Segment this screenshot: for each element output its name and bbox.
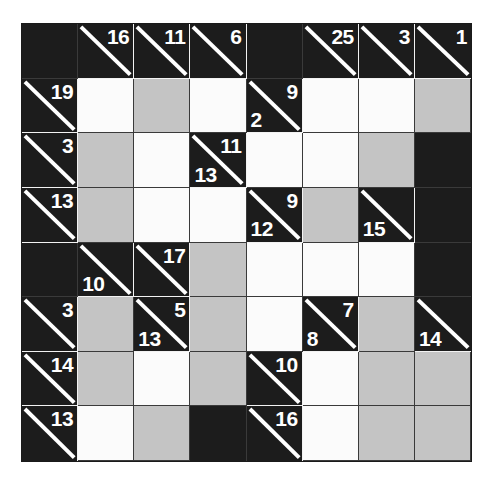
entry-cell[interactable]	[134, 406, 190, 461]
entry-cell[interactable]	[78, 406, 134, 461]
clue-cell: 1113	[190, 133, 246, 188]
entry-value	[359, 79, 414, 133]
clue-across-value: 17	[163, 244, 185, 267]
clue-across-value: 6	[230, 25, 241, 48]
entry-cell[interactable]	[78, 297, 134, 352]
clue-cell: 10	[78, 243, 134, 298]
clue-down-value: 12	[251, 217, 273, 240]
entry-cell[interactable]	[359, 297, 415, 352]
entry-value	[359, 406, 414, 460]
entry-cell[interactable]	[78, 79, 134, 134]
entry-value	[415, 352, 470, 406]
entry-cell[interactable]	[303, 133, 359, 188]
clue-cell: 3	[359, 24, 415, 79]
entry-cell[interactable]	[359, 243, 415, 298]
clue-cell: 19	[22, 79, 78, 134]
clue-cell: 13	[22, 406, 78, 461]
clue-across-value: 11	[220, 134, 241, 157]
entry-cell[interactable]	[415, 406, 471, 461]
entry-value	[78, 297, 133, 351]
entry-cell[interactable]	[359, 79, 415, 134]
entry-cell[interactable]	[134, 188, 190, 243]
blank-cell	[415, 133, 471, 188]
entry-cell[interactable]	[415, 352, 471, 407]
entry-value	[415, 406, 470, 460]
entry-cell[interactable]	[134, 133, 190, 188]
entry-cell[interactable]	[134, 79, 190, 134]
entry-value	[247, 297, 302, 351]
clue-down-value: 8	[307, 327, 318, 350]
entry-value	[190, 352, 245, 406]
clue-across-value: 25	[331, 25, 353, 48]
clue-down-value: 10	[82, 272, 104, 295]
entry-value	[134, 133, 189, 187]
entry-value	[303, 243, 358, 297]
entry-cell[interactable]	[303, 188, 359, 243]
blank-cell	[190, 406, 246, 461]
clue-across-value: 14	[51, 353, 73, 376]
entry-value	[78, 352, 133, 406]
entry-cell[interactable]	[78, 133, 134, 188]
clue-cell: 16	[247, 406, 303, 461]
entry-value	[359, 352, 414, 406]
entry-cell[interactable]	[247, 133, 303, 188]
entry-cell[interactable]	[134, 352, 190, 407]
entry-cell[interactable]	[190, 243, 246, 298]
entry-value	[415, 79, 470, 133]
clue-cell: 1	[415, 24, 471, 79]
entry-cell[interactable]	[190, 79, 246, 134]
entry-cell[interactable]	[247, 243, 303, 298]
entry-cell[interactable]	[415, 79, 471, 134]
entry-value	[190, 297, 245, 351]
clue-cell: 25	[303, 24, 359, 79]
clue-cell: 16	[78, 24, 134, 79]
clue-across-value: 3	[62, 298, 73, 321]
entry-cell[interactable]	[78, 188, 134, 243]
kakuro-puzzle: 1611625311992311131391215101735137814141…	[0, 0, 492, 484]
entry-cell[interactable]	[359, 406, 415, 461]
blank-cell	[415, 243, 471, 298]
entry-value	[359, 297, 414, 351]
clue-across-value: 11	[164, 25, 185, 48]
entry-cell[interactable]	[303, 243, 359, 298]
entry-cell[interactable]	[78, 352, 134, 407]
entry-value	[78, 79, 133, 133]
entry-value	[190, 188, 245, 242]
entry-cell[interactable]	[303, 406, 359, 461]
entry-value	[303, 406, 358, 460]
entry-cell[interactable]	[190, 188, 246, 243]
clue-cell: 92	[247, 79, 303, 134]
entry-value	[78, 133, 133, 187]
clue-cell: 3	[22, 297, 78, 352]
entry-value	[303, 188, 358, 242]
clue-cell: 13	[22, 188, 78, 243]
clue-across-value: 1	[456, 25, 467, 48]
entry-cell[interactable]	[190, 352, 246, 407]
clue-down-value: 14	[419, 327, 441, 350]
entry-cell[interactable]	[190, 297, 246, 352]
entry-cell[interactable]	[359, 133, 415, 188]
clue-across-value: 16	[275, 407, 297, 430]
entry-cell[interactable]	[303, 79, 359, 134]
clue-cell: 513	[134, 297, 190, 352]
entry-cell[interactable]	[359, 352, 415, 407]
entry-value	[303, 79, 358, 133]
entry-cell[interactable]	[303, 352, 359, 407]
clue-cell: 15	[359, 188, 415, 243]
clue-cell: 912	[247, 188, 303, 243]
clue-cell: 11	[134, 24, 190, 79]
entry-cell[interactable]	[247, 297, 303, 352]
clue-cell: 78	[303, 297, 359, 352]
clue-across-value: 7	[343, 298, 354, 321]
entry-value	[247, 243, 302, 297]
clue-across-value: 13	[51, 407, 73, 430]
entry-value	[190, 79, 245, 133]
entry-value	[247, 133, 302, 187]
clue-down-value: 13	[138, 327, 160, 350]
clue-cell: 14	[22, 352, 78, 407]
clue-cell: 3	[22, 133, 78, 188]
clue-cell: 6	[190, 24, 246, 79]
clue-across-value: 5	[174, 298, 185, 321]
blank-cell	[247, 24, 303, 79]
entry-value	[303, 352, 358, 406]
